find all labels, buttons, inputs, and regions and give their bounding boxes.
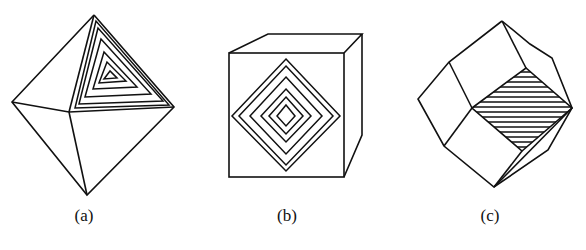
panel-label-a: (a) [75, 206, 94, 226]
octahedron-figure [12, 15, 174, 195]
nested-diamonds [232, 59, 340, 171]
cube-figure [229, 34, 362, 177]
panel-label-b: (b) [277, 206, 297, 226]
rhombic-dodecahedron-figure [418, 21, 580, 187]
panel-label-c: (c) [481, 206, 500, 226]
